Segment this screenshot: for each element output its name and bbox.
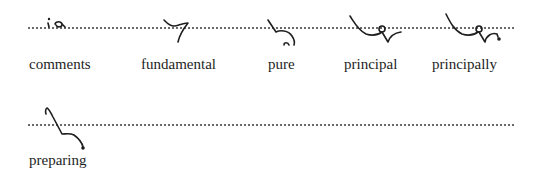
shorthand-outline-pure-icon	[266, 18, 300, 50]
word-label-fundamental: fundamental	[141, 57, 216, 72]
word-label-principal: principal	[344, 57, 397, 72]
shorthand-outline-principal-icon	[346, 12, 402, 48]
dotted-baseline-row-2	[28, 124, 514, 126]
word-label-comments: comments	[29, 57, 91, 72]
shorthand-outline-fundamental-icon	[160, 16, 196, 48]
word-label-preparing: preparing	[29, 153, 86, 168]
shorthand-page: comments fundamental pure principal prin…	[0, 0, 537, 172]
shorthand-outline-preparing-icon	[40, 104, 86, 150]
shorthand-outline-principally-icon	[442, 12, 502, 48]
shorthand-outline-comments-icon	[44, 14, 74, 34]
word-label-principally: principally	[432, 57, 497, 72]
word-label-pure: pure	[268, 57, 295, 72]
